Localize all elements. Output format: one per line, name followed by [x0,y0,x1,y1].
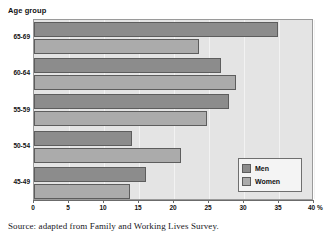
legend-swatch-men [242,164,251,173]
source-caption: Source: adapted from Family and Working … [8,221,219,231]
gridline [314,20,315,199]
y-axis-title: Age group [8,6,46,15]
chart-figure: Age group 65-6960-6455-5950-5445-49 0510… [0,0,326,239]
x-tick-label: 20 [169,204,176,211]
bar-men-50-54 [34,131,132,146]
y-tick-label: 50-54 [0,143,30,150]
x-tick [313,200,314,203]
legend-label-women: Women [255,178,280,185]
y-tick-label: 60-64 [0,70,30,77]
x-tick [33,200,34,203]
chart-legend: Men Women [238,158,302,192]
y-tick-label: 45-49 [0,179,30,186]
x-tick-label: 30 [239,204,246,211]
bar-men-65-69 [34,22,278,37]
category-band [34,92,312,128]
x-tick-label: 5 [66,204,70,211]
category-band [34,56,312,92]
x-tick-label: 0 [31,204,35,211]
bar-women-65-69 [34,39,199,54]
x-tick [243,200,244,203]
bar-women-55-59 [34,111,207,126]
bar-women-50-54 [34,148,181,163]
x-tick-label: 25 [204,204,211,211]
x-tick [138,200,139,203]
bar-women-60-64 [34,75,236,90]
x-tick [68,200,69,203]
x-tick-label: 10 [99,204,106,211]
x-tick-label: 35 [274,204,281,211]
bar-women-45-49 [34,184,130,199]
x-tick [173,200,174,203]
bar-men-45-49 [34,167,146,182]
legend-swatch-women [242,177,251,186]
bar-men-60-64 [34,58,221,73]
x-tick [208,200,209,203]
x-tick-label: 40 % [308,204,323,211]
category-band [34,20,312,56]
x-tick [103,200,104,203]
legend-item-men: Men [242,162,298,175]
x-tick-label: 15 [134,204,141,211]
legend-label-men: Men [255,165,269,172]
y-tick-label: 65-69 [0,34,30,41]
x-tick [278,200,279,203]
bar-men-55-59 [34,94,229,109]
y-tick-label: 55-59 [0,107,30,114]
legend-item-women: Women [242,175,298,188]
